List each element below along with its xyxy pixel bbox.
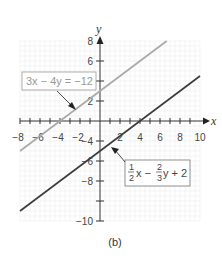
svg-text:4: 4 <box>137 132 143 143</box>
y-axis-arrow-icon <box>97 36 104 44</box>
x-axis <box>20 118 203 124</box>
svg-text:−10: −10 <box>76 216 93 227</box>
y-axis-label: y <box>95 22 102 36</box>
svg-text:6: 6 <box>157 132 163 143</box>
x-axis-arrow-icon <box>203 118 210 125</box>
y-axis <box>96 44 104 221</box>
svg-text:−4: −4 <box>82 136 94 147</box>
svg-text:2: 2 <box>129 173 134 183</box>
x-tick-labels: −8−6 −4−2 24 68 10 <box>12 132 206 143</box>
svg-text:6: 6 <box>87 56 93 67</box>
label-1-text: 3x − 4y = −12 <box>26 75 93 87</box>
svg-text:−8: −8 <box>12 132 24 143</box>
svg-text:y + 2: y + 2 <box>163 167 187 179</box>
svg-text:3: 3 <box>157 173 162 183</box>
x-axis-label: x <box>210 114 217 128</box>
svg-text:8: 8 <box>87 36 93 47</box>
graph: −8−6 −4−2 24 68 10 86 2−4 −6−8 −10 x y 3… <box>0 0 222 264</box>
svg-text:8: 8 <box>177 132 183 143</box>
caption: (b) <box>108 236 121 248</box>
svg-text:x −: x − <box>136 167 151 179</box>
svg-text:−8: −8 <box>82 176 94 187</box>
svg-text:10: 10 <box>194 132 206 143</box>
svg-text:−4: −4 <box>52 132 64 143</box>
svg-text:2: 2 <box>157 162 162 172</box>
svg-text:1: 1 <box>129 162 134 172</box>
